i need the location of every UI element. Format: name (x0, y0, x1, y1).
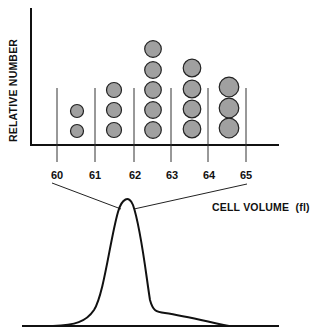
tick-labels: 60 61 62 63 64 65 (51, 169, 252, 181)
cell-circle (145, 122, 162, 139)
bin-61-62-cells (107, 83, 122, 138)
cell-circle (183, 59, 201, 77)
tick-label-60: 60 (51, 169, 63, 181)
cell-circle (145, 102, 162, 119)
cell-circle (219, 98, 239, 118)
bin-63-64-cells (183, 59, 201, 138)
cell-circle (183, 120, 201, 138)
cell-circle (219, 118, 239, 138)
bin-62-63-cells (145, 41, 162, 139)
tick-label-64: 64 (203, 169, 216, 181)
cell-circle (71, 125, 84, 138)
cell-circle (71, 105, 84, 118)
zoom-line-left (52, 183, 121, 209)
cell-circle (107, 123, 122, 138)
cell-circle (183, 80, 201, 98)
y-axis-label: RELATIVE NUMBER (7, 39, 19, 142)
bin-60-61-cells (71, 105, 84, 138)
cell-circle (183, 100, 201, 118)
cell-circle (145, 62, 162, 79)
bin-64-65-cells (219, 77, 239, 138)
cell-volume-diagram: RELATIVE NUMBER 60 61 62 63 64 65 (0, 0, 321, 333)
cell-circle (107, 103, 122, 118)
tick-label-61: 61 (89, 169, 101, 181)
tick-label-63: 63 (166, 169, 178, 181)
x-axis-label: CELL VOLUME (fl) (212, 201, 310, 213)
cell-circle (145, 41, 162, 58)
cell-circle (107, 83, 122, 98)
distribution-curve (53, 199, 229, 326)
tick-label-65: 65 (240, 169, 252, 181)
tick-label-62: 62 (129, 169, 141, 181)
cell-circle (145, 82, 162, 99)
cell-circle (219, 77, 239, 97)
